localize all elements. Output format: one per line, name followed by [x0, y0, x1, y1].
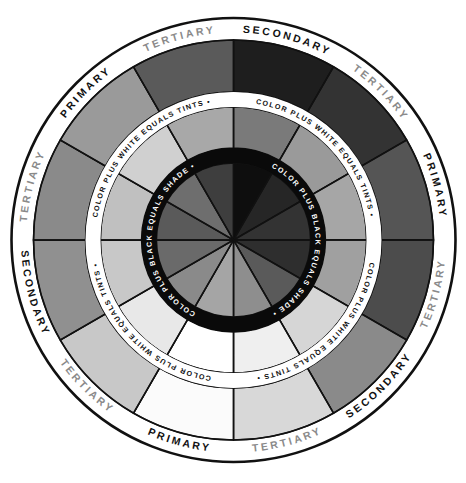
- color-wheel-diagram: COLOR PLUS WHITE EQUALS TINTS •COLOR PLU…: [0, 0, 466, 483]
